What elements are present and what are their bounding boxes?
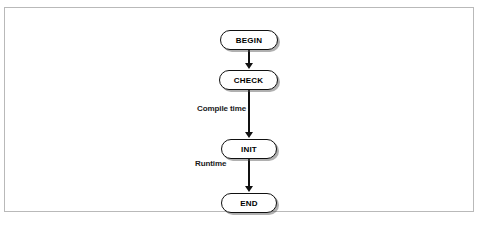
- flow-node-end-label: END: [240, 199, 258, 208]
- phase-band-label-runtime: Runtime: [195, 159, 226, 169]
- phase-band-compile-time: [5, 8, 97, 109]
- phase-band-label-compile-time: Compile time: [197, 104, 246, 114]
- flow-node-end: END: [221, 193, 277, 213]
- arrowhead-begin-to-check-icon: [245, 63, 253, 69]
- connector-check-to-init: [248, 90, 250, 133]
- connector-begin-to-check: [248, 50, 250, 64]
- connector-init-to-end: [248, 159, 250, 187]
- flow-node-check-label: CHECK: [234, 76, 263, 85]
- figure-frame: Compile time Runtime BEGIN CHECK INIT EN…: [4, 7, 474, 212]
- arrowhead-check-to-init-icon: [245, 132, 253, 138]
- arrowhead-init-to-end-icon: [245, 186, 253, 192]
- flow-node-init-label: INIT: [241, 145, 257, 154]
- phase-band-runtime: [5, 109, 108, 150]
- flow-node-check: CHECK: [219, 70, 278, 90]
- flow-node-begin-label: BEGIN: [236, 36, 262, 45]
- flowchart-figure: Compile time Runtime BEGIN CHECK INIT EN…: [0, 0, 482, 227]
- flow-node-begin: BEGIN: [220, 30, 278, 50]
- flow-node-init: INIT: [221, 139, 277, 159]
